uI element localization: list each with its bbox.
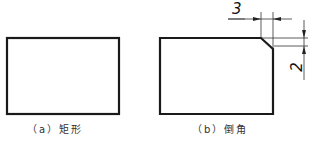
arrow-up-icon: [302, 46, 306, 54]
dimension-label-horizontal: 3: [232, 0, 242, 18]
caption-b: （b）倒角: [192, 121, 248, 136]
rectangle-a: [7, 38, 119, 114]
dimension-label-vertical: 2: [288, 62, 306, 72]
caption-a: （a）矩形: [27, 121, 83, 136]
arrow-down-icon: [302, 30, 306, 38]
chamfered-rectangle-b: [160, 38, 273, 114]
arrow-right-icon: [253, 17, 261, 21]
arrow-left-icon: [273, 17, 281, 21]
